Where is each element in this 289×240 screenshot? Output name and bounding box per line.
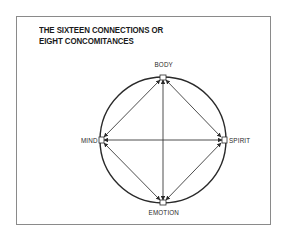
node-marker-body <box>160 75 166 80</box>
node-label-body: BODY <box>155 60 172 69</box>
node-label-emotion: EMOTION <box>149 208 178 217</box>
node-label-mind: MIND <box>81 136 98 145</box>
connection-body-spirit <box>166 80 221 137</box>
node-marker-emotion <box>160 200 166 205</box>
connection-spirit-emotion <box>166 143 221 200</box>
connection-diagram <box>0 0 289 240</box>
node-label-spirit: SPIRIT <box>229 136 250 145</box>
connection-emotion-mind <box>104 143 160 200</box>
node-marker-spirit <box>222 137 227 143</box>
node-marker-mind <box>99 137 104 143</box>
connection-mind-body <box>104 80 160 137</box>
